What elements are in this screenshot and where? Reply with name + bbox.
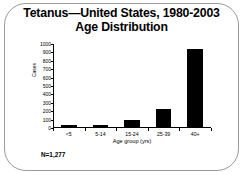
y-axis-tick-label: 200 [43, 109, 51, 114]
slide-canvas: Tetanus—United States, 1980-2003 Age Dis… [0, 0, 243, 175]
y-axis-tick-labels: 01002003004005006007008009001000 [33, 42, 51, 130]
x-axis-tick-label: 25-39 [157, 131, 170, 137]
x-axis-title: Age group (yrs) [53, 138, 211, 144]
x-axis-tick-label: 15-24 [125, 131, 138, 137]
x-axis-line [53, 127, 211, 128]
y-axis-tick-mark [51, 103, 54, 104]
x-axis-tick-label: 40+ [191, 131, 200, 137]
bar-5-14 [93, 125, 109, 127]
x-axis-tick-label: 5-14 [95, 131, 105, 137]
y-axis-tick-label: 1000 [40, 42, 51, 47]
y-axis-tick-label: 900 [43, 50, 51, 55]
sample-size-note: N=1,277 [41, 151, 65, 158]
bar-15-24 [124, 120, 140, 127]
y-axis-tick-mark [51, 86, 54, 87]
y-axis-tick-label: 100 [43, 117, 51, 122]
y-axis-tick-mark [51, 120, 54, 121]
y-axis-tick-mark [51, 111, 54, 112]
y-axis-tick-mark [51, 78, 54, 79]
y-axis-tick-mark [51, 44, 54, 45]
bar-25-39 [156, 109, 172, 127]
x-axis-tick-label: <5 [66, 131, 72, 137]
y-axis-tick-mark [51, 52, 54, 53]
x-axis-tick-mark [211, 128, 212, 131]
y-axis-tick-mark [51, 69, 54, 70]
y-axis-tick-label: 700 [43, 67, 51, 72]
chart-plot-area: Cases 01002003004005006007008009001000 <… [0, 0, 243, 175]
y-axis-tick-mark [51, 61, 54, 62]
y-axis-tick-label: 300 [43, 100, 51, 105]
y-axis-tick-label: 800 [43, 58, 51, 63]
bar-40 [187, 49, 203, 127]
bar-5 [61, 125, 77, 127]
chart-axes [53, 44, 211, 128]
y-axis-tick-label: 600 [43, 75, 51, 80]
y-axis-tick-label: 500 [43, 84, 51, 89]
y-axis-tick-mark [51, 94, 54, 95]
y-axis-tick-label: 400 [43, 92, 51, 97]
